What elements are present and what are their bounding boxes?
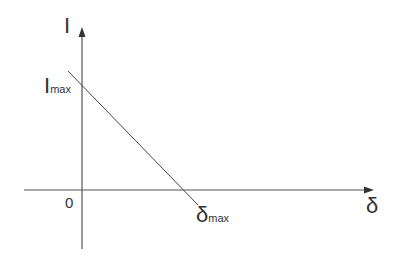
y-axis-arrow-icon xyxy=(79,27,86,37)
x-axis-label: δ xyxy=(366,193,378,218)
y-intercept-sub: max xyxy=(50,83,71,95)
origin-label: 0 xyxy=(65,194,73,211)
x-intercept-label: δmax xyxy=(196,202,230,227)
y-axis-label: I xyxy=(64,13,70,38)
x-intercept-sub: max xyxy=(208,212,229,224)
y-intercept-label: Imax xyxy=(44,73,71,98)
x-intercept-main: δ xyxy=(196,202,208,227)
diagram-canvas: I Imax 0 δmax δ xyxy=(0,0,397,266)
i-delta-line xyxy=(68,71,198,205)
